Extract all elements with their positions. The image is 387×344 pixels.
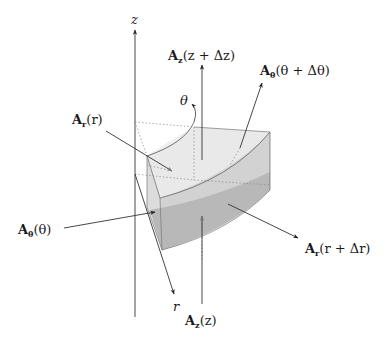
Ar-left-label: Ar(r) (71, 112, 103, 129)
theta-label: θ (180, 93, 188, 108)
Ar-right-arrow (228, 204, 298, 238)
r-axis-label: r (173, 299, 180, 314)
Az-top-label: Az(z + Δz) (167, 48, 235, 65)
theta-arrow (192, 104, 196, 122)
cylindrical-volume-diagram: z r θ Az(z + Δz) Aθ(θ + Δθ) Ar(r) Aθ(θ) … (0, 0, 387, 344)
Atheta-left-arrow (64, 212, 155, 228)
z-axis-label: z (130, 12, 138, 27)
Atheta-left-label: Aθ(θ) (17, 222, 51, 239)
Atheta-top-label: Aθ(θ + Δθ) (259, 63, 330, 80)
Az-bottom-label: Az(z) (184, 313, 217, 330)
Ar-right-label: Ar(r + Δr) (304, 241, 370, 258)
